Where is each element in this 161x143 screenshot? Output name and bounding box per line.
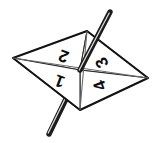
- spinner-figure: 2 1 3 4: [0, 0, 161, 143]
- spinner-illustration: 2 1 3 4: [0, 0, 161, 143]
